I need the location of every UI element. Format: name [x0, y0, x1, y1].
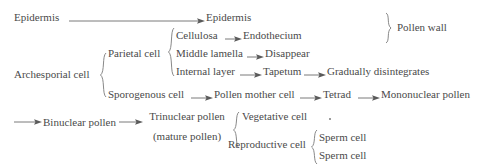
- node-epidermis-source: Epidermis: [14, 11, 59, 24]
- node-tapetum: Tapetum: [263, 65, 301, 78]
- node-trinuclear-pollen-line2: (mature pollen): [143, 130, 231, 143]
- pollen-development-flowchart: Epidermis Epidermis Pollen wall Cellulos…: [0, 0, 489, 167]
- connector-tapetum-to-gradually-disintegrates: [304, 71, 326, 79]
- connector-sporogenous-to-pollen-mother-cell: [191, 94, 213, 102]
- reproductive-cell-brace: [310, 130, 319, 164]
- pollen-wall-brace: [385, 13, 394, 43]
- node-mononuclear-pollen: Mononuclear pollen: [381, 88, 470, 101]
- connector-cellulosa-to-endothecium: [225, 35, 242, 43]
- node-sperm-cell-1: Sperm cell: [319, 131, 366, 144]
- node-internal-layer: Internal layer: [176, 65, 235, 78]
- connector-binuclear-to-trinuclear-pollen: [119, 118, 143, 126]
- parietal-cell-brace: [167, 28, 176, 76]
- node-epidermis-target: Epidermis: [206, 11, 251, 24]
- archesporial-cell-brace: [99, 53, 108, 97]
- node-sporogenous-cell: Sporogenous cell: [108, 88, 184, 101]
- node-vegetative-cell: Vegetative cell: [242, 110, 307, 123]
- node-sperm-cell-2: Sperm cell: [319, 149, 366, 162]
- node-cellulosa: Cellulosa: [176, 29, 218, 42]
- connector-internal-layer-to-tapetum: [240, 71, 262, 79]
- node-tetrad: Tetrad: [323, 88, 351, 101]
- node-trinuclear-pollen-line1: Trinuclear pollen: [143, 110, 231, 123]
- connector-epidermis-to-epidermis: [69, 17, 205, 25]
- connector-tetrad-to-mononuclear-pollen: [358, 94, 380, 102]
- node-gradually-disintegrates: Gradually disintegrates: [327, 65, 429, 78]
- connector-wrap-to-binuclear-pollen: [14, 118, 42, 126]
- node-binuclear-pollen: Binuclear pollen: [43, 116, 116, 129]
- node-middle-lamella: Middle lamella: [176, 47, 243, 60]
- node-disappear: Disappear: [265, 47, 310, 60]
- node-reproductive-cell: Reproductive cell: [228, 138, 306, 151]
- node-archesporial-cell: Archesporial cell: [14, 68, 89, 81]
- connector-pollen-mother-cell-to-tetrad: [300, 94, 322, 102]
- stray-dot: [329, 118, 331, 120]
- node-parietal-cell: Parietal cell: [108, 47, 160, 60]
- node-endothecium: Endothecium: [243, 29, 302, 42]
- connector-middle-lamella-to-disappear: [247, 53, 264, 61]
- node-pollen-wall: Pollen wall: [397, 21, 447, 34]
- node-pollen-mother-cell: Pollen mother cell: [214, 88, 295, 101]
